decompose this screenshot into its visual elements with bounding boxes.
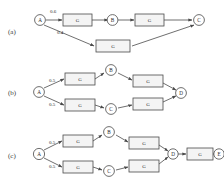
panel-a: (a) G G G A bbox=[0, 0, 224, 62]
panel-c-box-g5-label: G bbox=[198, 152, 202, 157]
panel-b-weight-top: 0.5 bbox=[49, 78, 56, 83]
panel-a-node-c-label: C bbox=[197, 17, 201, 23]
panel-a-node-b-label: B bbox=[111, 17, 115, 23]
panel-b-node-a-label: A bbox=[37, 89, 41, 95]
panel-c-node-b-label: B bbox=[107, 129, 111, 135]
panel-a-weight-bottom: 0.4 bbox=[57, 30, 64, 35]
panel-c-box-g2-label: G bbox=[142, 141, 146, 146]
panel-b-weight-bottom: 0.5 bbox=[49, 102, 56, 107]
panel-c-box-g3-label: G bbox=[76, 165, 80, 170]
panel-c-weight-bottom: 0.5 bbox=[49, 164, 56, 169]
panel-b-node-c-label: C bbox=[109, 106, 113, 112]
panel-b-node-b-label: B bbox=[109, 67, 113, 73]
edge-c-g3-to-cnode bbox=[93, 167, 102, 170]
panel-a-box-g2-label: G bbox=[148, 18, 152, 23]
panel-b: (b) G G G G bbox=[0, 62, 224, 122]
figure-three-graph-panels: (a) G G G A bbox=[0, 0, 224, 187]
edge-b-bnode-to-g2 bbox=[118, 73, 132, 80]
panel-b-box-g4-label: G bbox=[146, 102, 150, 107]
edge-g3-to-c bbox=[132, 25, 194, 46]
edge-b-g3-to-cnode bbox=[95, 105, 104, 108]
panel-a-box-g3-label: G bbox=[111, 44, 115, 49]
panel-b-box-g3-label: G bbox=[78, 103, 82, 108]
panel-c-box-g4-label: G bbox=[142, 164, 146, 169]
panel-c-box-g1-label: G bbox=[76, 139, 80, 144]
panel-c-weight-top: 0.5 bbox=[49, 140, 56, 145]
edge-c-g4-to-d bbox=[159, 157, 168, 164]
edge-b-g1-to-bnode bbox=[95, 73, 104, 79]
edge-c-cnode-to-g4 bbox=[116, 167, 128, 170]
panel-a-box-g1-label: G bbox=[76, 18, 80, 23]
edge-c-bnode-to-g2 bbox=[116, 135, 128, 142]
panel-c-node-a-label: A bbox=[37, 151, 41, 157]
panel-c-graph: G G G G G A B C D E 0.5 0.5 bbox=[0, 122, 224, 187]
panel-b-graph: G G G G A B C D 0.5 0.5 bbox=[0, 62, 224, 122]
edge-b-g4-to-d bbox=[163, 96, 176, 102]
panel-c-node-d-label: D bbox=[171, 151, 175, 157]
edge-a-to-g3 bbox=[44, 25, 94, 46]
panel-c-node-c-label: C bbox=[107, 168, 111, 174]
panel-a-weight-top: 0.6 bbox=[50, 9, 57, 14]
panel-b-box-g2-label: G bbox=[146, 79, 150, 84]
edge-b-g2-to-d bbox=[163, 83, 176, 90]
panel-a-node-a-label: A bbox=[38, 17, 42, 23]
edge-c-g1-to-bnode bbox=[93, 135, 102, 141]
panel-c-node-e-label: E bbox=[217, 151, 220, 157]
panel-a-graph: G G G A B C 0.6 0.4 bbox=[0, 0, 224, 62]
edge-c-g2-to-d bbox=[159, 145, 168, 151]
edge-b-cnode-to-g4 bbox=[118, 105, 132, 108]
panel-c: (c) G G bbox=[0, 122, 224, 187]
panel-b-node-d-label: D bbox=[179, 90, 183, 96]
panel-b-box-g1-label: G bbox=[78, 77, 82, 82]
